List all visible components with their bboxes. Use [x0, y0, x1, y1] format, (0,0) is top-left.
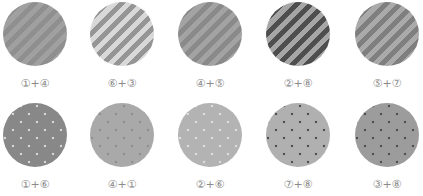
dotted-circle — [3, 103, 67, 167]
dotted-circle — [178, 103, 242, 167]
combination-label: ④+① — [82, 178, 162, 191]
dotted-circle — [90, 103, 154, 167]
dotted-circle — [355, 103, 419, 167]
combination-label: ④+⑤ — [170, 77, 250, 90]
dot-cell-5: ③+⑧ — [347, 103, 423, 191]
combination-label: ②+⑧ — [258, 77, 338, 90]
combination-label: ②+⑥ — [170, 178, 250, 191]
dot-cell-3: ②+⑥ — [170, 103, 250, 191]
stripe-cell-5: ⑤+⑦ — [347, 2, 423, 90]
dotted-circle — [266, 103, 330, 167]
striped-circle — [90, 2, 154, 66]
striped-circle — [266, 2, 330, 66]
dot-cell-4: ⑦+⑧ — [258, 103, 338, 191]
combination-label: ⑤+⑦ — [347, 77, 423, 90]
combination-label: ①+④ — [0, 77, 75, 90]
dot-cell-2: ④+① — [82, 103, 162, 191]
striped-circle — [3, 2, 67, 66]
combination-label: ①+⑥ — [0, 178, 75, 191]
stripe-cell-2: ⑥+③ — [82, 2, 162, 90]
stripe-cell-4: ②+⑧ — [258, 2, 338, 90]
striped-circle — [355, 2, 419, 66]
combination-label: ③+⑧ — [347, 178, 423, 191]
striped-circle — [178, 2, 242, 66]
combination-label: ⑦+⑧ — [258, 178, 338, 191]
dot-cell-1: ①+⑥ — [0, 103, 75, 191]
combination-label: ⑥+③ — [82, 77, 162, 90]
stripe-cell-1: ①+④ — [0, 2, 75, 90]
stripe-cell-3: ④+⑤ — [170, 2, 250, 90]
